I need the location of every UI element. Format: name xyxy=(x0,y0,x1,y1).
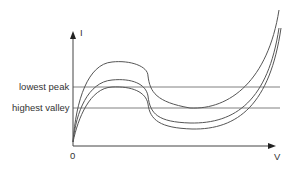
y-axis-arrow-icon xyxy=(70,31,76,39)
highest-valley-label: highest valley xyxy=(12,103,70,113)
lower-curve xyxy=(73,28,281,142)
x-axis-arrow-icon xyxy=(268,143,276,149)
y-axis-label: I xyxy=(80,28,83,38)
middle-curve xyxy=(73,28,279,142)
iv-characteristic-diagram: lowest peak highest valley I V 0 xyxy=(0,0,293,170)
x-axis-label: V xyxy=(274,152,280,162)
lowest-peak-label: lowest peak xyxy=(19,82,69,92)
origin-label: 0 xyxy=(70,151,75,161)
